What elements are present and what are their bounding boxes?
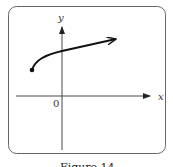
x-axis-label: x bbox=[158, 91, 164, 102]
figure-caption: Figure 14 bbox=[60, 161, 115, 167]
y-axis-label: y bbox=[57, 12, 64, 23]
function-curve bbox=[32, 39, 116, 70]
origin-label: 0 bbox=[53, 98, 59, 109]
curve-start-dot bbox=[30, 68, 35, 73]
figure-frame bbox=[9, 7, 166, 154]
figure-graph: x y 0 Figure 14 bbox=[0, 0, 173, 167]
